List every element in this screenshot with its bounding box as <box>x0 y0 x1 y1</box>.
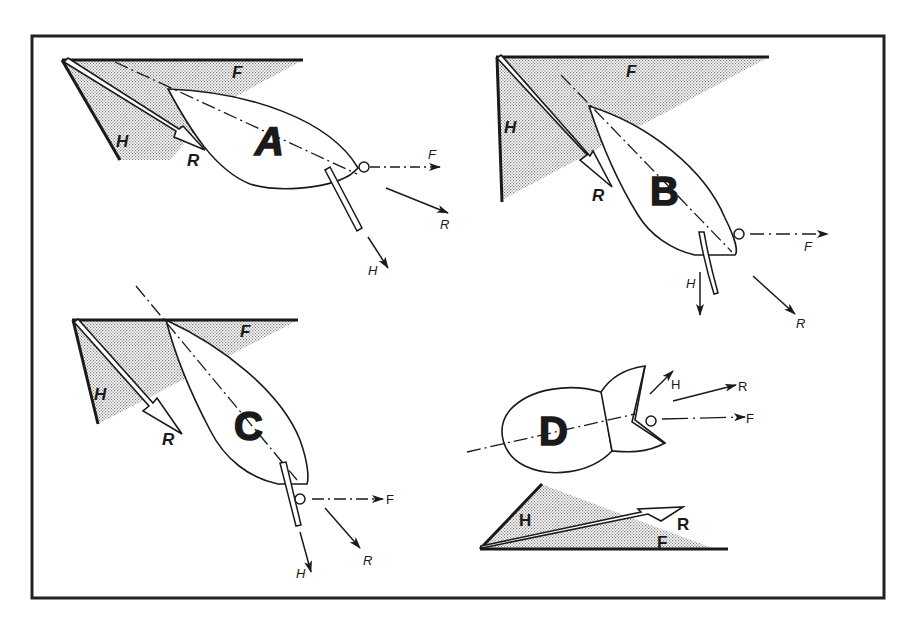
triangle-label-h: H <box>504 118 517 137</box>
triangle-label-f: F <box>626 62 637 81</box>
triangle-label-h: H <box>519 511 531 530</box>
vector-label-f: F <box>804 239 813 254</box>
sail-d <box>601 366 665 452</box>
vector-label-h: H <box>671 377 680 392</box>
vector-label-f: F <box>386 492 394 507</box>
triangle-label-r: R <box>677 515 689 534</box>
vector-r-c <box>325 508 360 548</box>
boat-letter-c: C <box>234 404 263 448</box>
vector-f-d <box>662 417 745 419</box>
vector-label-r: R <box>738 379 747 394</box>
vector-label-r: R <box>796 316 805 331</box>
diagram-canvas: F H R A F R H F H R B <box>0 0 915 631</box>
pivot-d <box>646 416 656 426</box>
panel-b: F H R B F R H <box>496 55 828 331</box>
vector-label-r: R <box>440 217 449 232</box>
vector-label-h: H <box>368 263 378 278</box>
panel-d: D F R H H R F <box>467 366 754 552</box>
panel-c: F H R C F R H <box>72 286 394 581</box>
vector-r-b <box>753 276 795 314</box>
vector-label-h: H <box>296 566 306 581</box>
panel-a: F H R A F R H <box>62 58 449 278</box>
vector-label-f: F <box>746 411 754 426</box>
pivot-a <box>359 162 369 172</box>
triangle-label-h: H <box>94 385 107 404</box>
vector-label-f: F <box>428 147 437 162</box>
triangle-label-r: R <box>592 186 605 205</box>
triangle-label-f: F <box>232 63 243 82</box>
boat-letter-b: B <box>650 169 679 213</box>
triangle-label-f: F <box>240 322 251 341</box>
vector-label-h: H <box>686 276 696 291</box>
vector-r-d <box>673 385 736 401</box>
triangle-label-h: H <box>116 132 129 151</box>
pivot-c <box>295 494 305 504</box>
vector-label-r: R <box>363 553 372 568</box>
force-triangle-d: H R F <box>480 484 728 552</box>
boat-letter-d: D <box>539 409 568 453</box>
triangle-label-r: R <box>162 430 175 449</box>
vector-h-d <box>650 371 673 394</box>
vector-r-a <box>386 188 448 213</box>
pivot-b <box>734 229 744 239</box>
triangle-label-f: F <box>657 533 667 552</box>
sail-force-diagram: F H R A F R H F H R B <box>0 0 915 631</box>
triangle-label-r: R <box>187 151 200 170</box>
